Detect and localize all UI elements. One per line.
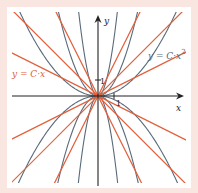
y-tick-label: 1: [100, 77, 105, 86]
diagram-canvas: y x 1 1 y = C·x2 y = C·x: [0, 0, 198, 193]
y-axis-label: y: [103, 16, 110, 26]
x-tick-label: 1: [116, 99, 121, 108]
axes: [12, 15, 184, 186]
line-family-label: y = C·x: [11, 69, 45, 79]
x-axis-label: x: [176, 103, 181, 113]
diagram-frame: y x 1 1 y = C·x2 y = C·x: [0, 0, 198, 193]
parabola-family-label: y = C·x2: [147, 48, 186, 61]
parabola-exponent: 2: [181, 48, 185, 56]
parabola-family-label-text: y = C·x: [147, 51, 181, 61]
